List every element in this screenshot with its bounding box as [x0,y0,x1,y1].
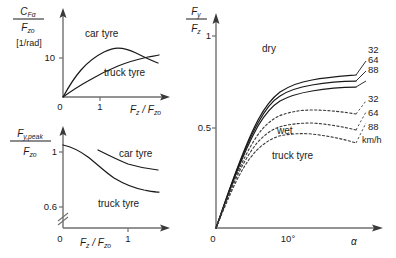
y-axis-unit: [1/rad] [16,38,42,48]
speed-label-wet-88: 88 [368,121,379,132]
leader-dry-88 [356,81,366,87]
group-label-dry: dry [262,43,276,54]
group-label-wet: wet [276,125,293,136]
x-tick-label-1: 1 [97,101,102,112]
curve-label-truck-tyre-stiffness: truck tyre [104,67,146,78]
chart-title-truck-tyre: truck tyre [272,150,314,161]
speed-label-wet-64: 64 [368,107,379,118]
y-axis-denominator-peak: Fzo [23,146,37,158]
curve-label-car-tyre-peak: car tyre [119,148,153,159]
x-axis-label-load-ratio: Fz / Fzo [130,104,161,116]
x-tick-label-0-peak: 0 [57,233,62,244]
chart-cornering-stiffness: CFα Fzo [1/rad] 10 0 1 Fz / Fzo car tyre… [13,6,170,116]
x-axis-label-slip-angle: α [351,236,357,247]
y-axis-label-peak-force: Fy,peak Fzo [10,128,51,158]
y-axis-numerator-peak: Fy,peak [17,128,43,141]
y-axis-denominator: Fzo [21,22,35,34]
y-axis-numerator: CFα [20,6,36,18]
speed-label-dry-88: 88 [368,64,379,75]
y-tick-label-05-slip: 0.5 [198,122,211,133]
x-tick-label-0-slip: 0 [210,233,215,244]
figure-canvas: CFα Fzo [1/rad] 10 0 1 Fz / Fzo car tyre… [0,0,396,258]
tyre-characteristics-figure: CFα Fzo [1/rad] 10 0 1 Fz / Fzo car tyre… [0,0,396,258]
x-tick-label-10deg: 10° [281,233,296,244]
y-axis-label-force-ratio: Fy Fz [186,6,207,35]
y-tick-label-1-peak: 1 [52,146,57,157]
y-tick-label-10: 10 [44,52,55,63]
leader-wet-32 [356,101,366,114]
y-tick-label-06-peak: 0.6 [44,201,57,212]
x-tick-label-1-peak: 1 [125,233,130,244]
chart-peak-lateral-force: Fy,peak Fzo 1 0.6 0 1 Fz / Fzo car tyre … [10,126,170,249]
curve-wet-64 [216,123,356,228]
y-axis-numerator-slip: Fy [191,6,201,19]
curve-wet-88 [216,134,356,228]
y-axis-denominator-slip: Fz [191,23,201,35]
curve-label-car-tyre-stiffness: car tyre [85,28,119,39]
leader-wet-64 [356,112,366,130]
y-axis-label-cornering-stiffness: CFα Fzo [1/rad] [13,6,44,48]
x-tick-label-0: 0 [57,101,62,112]
chart-lateral-force-vs-slip: Fy Fz 1 0.5 0 10° α dry wet truck tyre 3… [186,6,383,247]
x-axis-label-load-ratio-peak: Fz / Fzo [80,237,111,249]
curve-label-truck-tyre-peak: truck tyre [98,198,140,209]
speed-unit-label: km/h [362,135,382,145]
y-tick-label-1-slip: 1 [206,30,211,41]
speed-label-wet-32: 32 [368,93,379,104]
